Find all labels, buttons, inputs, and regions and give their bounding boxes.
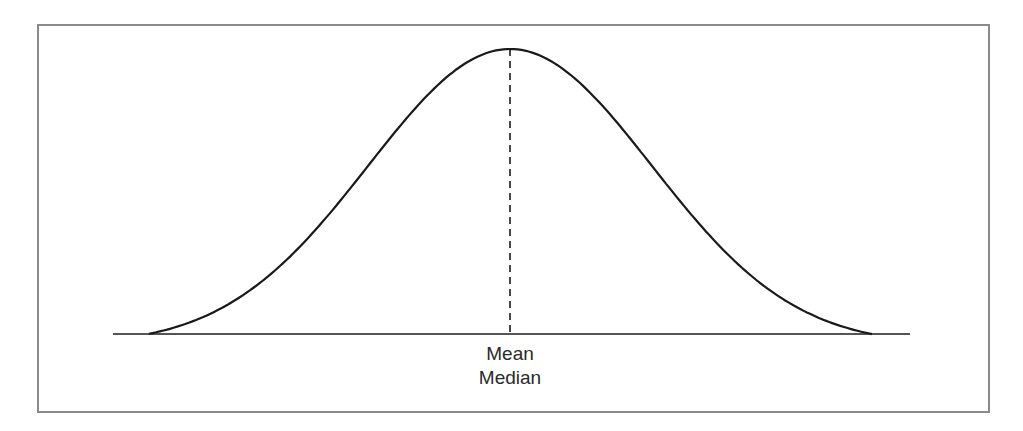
mean-label: Mean	[430, 343, 590, 365]
median-label: Median	[430, 367, 590, 389]
